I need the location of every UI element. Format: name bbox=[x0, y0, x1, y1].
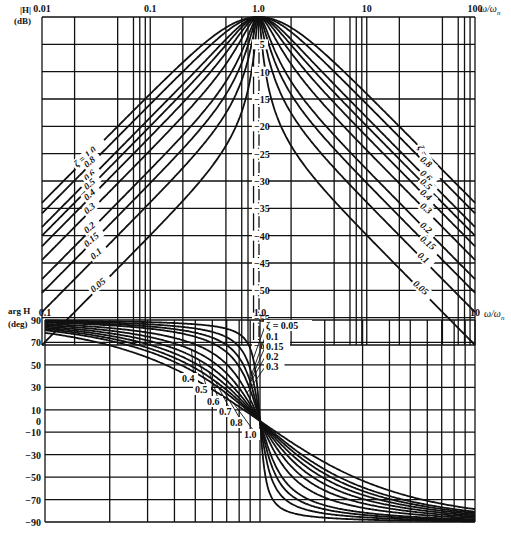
phase-x-ticks: 0.11.010 bbox=[39, 307, 480, 318]
phase-y-label-line1: arg H bbox=[8, 306, 30, 316]
phase-y-label-line2: (deg) bbox=[8, 319, 28, 329]
db-tick-label: −50 bbox=[254, 285, 270, 296]
phase-zeta-label-left: 0.5 bbox=[195, 384, 208, 395]
phase-zeta-label-left: 0.8 bbox=[230, 417, 243, 428]
phase-zeta-label-left: 0.7 bbox=[219, 406, 232, 417]
magnitude-x-ticks: 0.010.11.010100 bbox=[33, 3, 482, 14]
phase-x-tick-label: 10 bbox=[470, 307, 480, 318]
phase-y-tick-label: −10 bbox=[25, 427, 41, 438]
phase-x-tick-label: 0.1 bbox=[39, 307, 52, 318]
db-tick-label: −40 bbox=[254, 231, 270, 242]
phase-zeta-label-left: 0.6 bbox=[207, 396, 220, 407]
phase-y-tick-label: −50 bbox=[25, 472, 41, 483]
magnitude-chart: −5−10−15−20−25−30−35−40−45−50−55−60 0.01… bbox=[14, 3, 501, 351]
phase-y-ticks: 90705030100−10−30−50−70−90 bbox=[25, 315, 41, 528]
phase-y-tick-label: 10 bbox=[31, 405, 41, 416]
phase-x-unit-label: ω/ωn bbox=[484, 308, 505, 322]
phase-y-tick-label: −70 bbox=[25, 495, 41, 506]
bode-plot-svg: −5−10−15−20−25−30−35−40−45−50−55−60 0.01… bbox=[0, 0, 511, 535]
magnitude-x-unit-label: ω/ωn bbox=[480, 3, 501, 17]
magnitude-y-label-line2: (dB) bbox=[14, 16, 31, 26]
db-tick-label: −15 bbox=[254, 94, 270, 105]
db-tick-label: −45 bbox=[254, 258, 270, 269]
x-tick-label: 0.01 bbox=[33, 3, 51, 14]
phase-y-tick-label: −90 bbox=[25, 517, 41, 528]
phase-zeta-label-left: 0.4 bbox=[182, 373, 195, 384]
phase-y-tick-label: 30 bbox=[31, 382, 41, 393]
phase-zeta-label-right: 0.3 bbox=[266, 361, 279, 372]
phase-y-tick-label: 70 bbox=[31, 337, 41, 348]
x-tick-label: 10 bbox=[362, 3, 372, 14]
db-tick-label: −30 bbox=[254, 176, 270, 187]
magnitude-y-label-line1: |H| bbox=[20, 5, 31, 15]
bode-plot-figure: −5−10−15−20−25−30−35−40−45−50−55−60 0.01… bbox=[0, 0, 511, 535]
phase-y-tick-label: −30 bbox=[25, 450, 41, 461]
magnitude-db-axis: −5−10−15−20−25−30−35−40−45−50−55−60 bbox=[252, 39, 270, 351]
db-tick-label: −5 bbox=[254, 39, 265, 50]
db-tick-label: −25 bbox=[254, 149, 270, 160]
phase-zeta-label-left: 1.0 bbox=[244, 429, 257, 440]
x-tick-label: 1.0 bbox=[252, 3, 265, 14]
db-tick-label: −35 bbox=[254, 203, 270, 214]
db-tick-label: −20 bbox=[254, 121, 270, 132]
db-tick-label: −10 bbox=[254, 67, 270, 78]
x-tick-label: 0.1 bbox=[144, 3, 157, 14]
phase-y-tick-label: 0 bbox=[36, 416, 41, 427]
phase-y-tick-label: 50 bbox=[31, 360, 41, 371]
phase-x-tick-label: 1.0 bbox=[254, 307, 267, 318]
